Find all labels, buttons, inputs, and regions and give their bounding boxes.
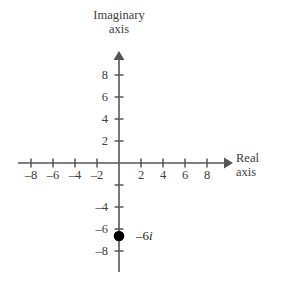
data-point-minus-six-i bbox=[114, 231, 125, 242]
x-tick-label-4: 4 bbox=[153, 169, 173, 182]
real-axis-arrowhead bbox=[224, 158, 233, 169]
y-tick-label-minus-4: –4 bbox=[86, 201, 108, 214]
y-tick-label-minus-8: –8 bbox=[86, 245, 108, 258]
x-tick-label-8: 8 bbox=[197, 169, 217, 182]
point-annotation-value: –6 bbox=[136, 228, 149, 243]
imaginary-axis-arrowhead bbox=[114, 51, 125, 60]
x-tick-label-minus-8: –8 bbox=[21, 169, 41, 182]
y-tick-label-minus-6: –6 bbox=[86, 223, 108, 236]
x-tick-label-minus-6: –6 bbox=[43, 169, 63, 182]
y-tick-label-2: 2 bbox=[86, 135, 108, 148]
complex-plane-figure: Imaginary axis Real axis bbox=[0, 0, 290, 281]
point-annotation-imaginary-unit: i bbox=[149, 228, 153, 243]
x-tick-label-6: 6 bbox=[175, 169, 195, 182]
y-tick-label-8: 8 bbox=[86, 69, 108, 82]
x-tick-label-minus-4: –4 bbox=[65, 169, 85, 182]
point-annotation-minus-six-i: –6i bbox=[136, 229, 153, 243]
y-tick-label-4: 4 bbox=[86, 113, 108, 126]
x-tick-label-2: 2 bbox=[131, 169, 151, 182]
x-tick-label-minus-2: –2 bbox=[87, 169, 107, 182]
y-tick-label-6: 6 bbox=[86, 91, 108, 104]
